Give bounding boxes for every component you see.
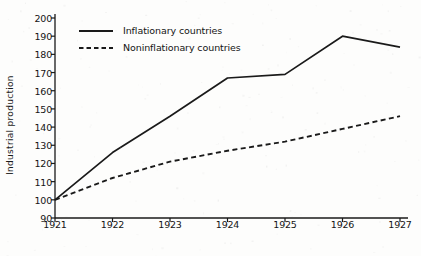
legend-label-inflationary: Inflationary countries [123, 25, 222, 36]
legend-label-noninflationary: Noninflationary countries [123, 42, 241, 53]
data-series [55, 36, 400, 200]
series-line-inflationary-countries [55, 36, 400, 200]
legend-swatch-dashed-icon [78, 43, 114, 53]
legend-swatch-solid-icon [78, 26, 114, 36]
legend-item-inflationary: Inflationary countries [78, 22, 308, 39]
chart-legend: Inflationary countries Noninflationary c… [78, 22, 308, 56]
legend-item-noninflationary: Noninflationary countries [78, 39, 308, 56]
chart-figure: Industrial production 901001101201301401… [0, 0, 421, 256]
